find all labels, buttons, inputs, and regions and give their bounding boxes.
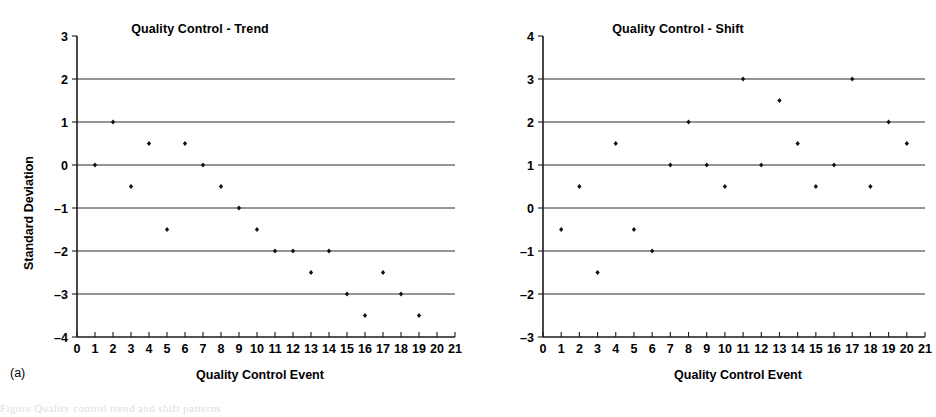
data-point — [111, 119, 115, 124]
data-point — [741, 76, 745, 81]
y-tick-label: 1 — [61, 116, 68, 130]
x-tick-label: 16 — [358, 342, 372, 356]
x-tick-label: 19 — [412, 342, 426, 356]
chart-panel-shift: Quality Control - Shift Standard Deviati… — [468, 0, 936, 400]
data-point — [255, 227, 259, 232]
data-point — [595, 270, 599, 275]
x-tick-label: 15 — [340, 342, 354, 356]
x-tick-label: 0 — [74, 342, 81, 356]
plot-area-shift: 43210–1–2–301234567891011121314151617181… — [468, 0, 936, 400]
y-tick-label: 2 — [61, 73, 68, 87]
x-tick-label: 2 — [110, 342, 117, 356]
y-tick-label: –1 — [54, 202, 68, 216]
x-tick-label: 2 — [576, 342, 583, 356]
x-tick-label: 8 — [218, 342, 225, 356]
cut-off-caption-text: Figure Quality control trend and shift p… — [0, 402, 936, 417]
x-tick-label: 7 — [200, 342, 207, 356]
data-point — [201, 162, 205, 167]
y-tick-label: –2 — [54, 245, 68, 259]
x-tick-label: 6 — [649, 342, 656, 356]
x-tick-label: 4 — [612, 342, 619, 356]
data-point — [417, 313, 421, 318]
data-point — [291, 248, 295, 253]
data-point — [814, 184, 818, 189]
data-point — [723, 184, 727, 189]
x-tick-label: 16 — [827, 342, 841, 356]
data-point — [650, 248, 654, 253]
data-point — [273, 248, 277, 253]
y-tick-label: 3 — [527, 73, 534, 87]
y-tick-label: 2 — [527, 116, 534, 130]
data-point — [796, 141, 800, 146]
figure-root: Quality Control - Trend Standard Deviati… — [0, 0, 936, 417]
x-tick-label: 20 — [900, 342, 914, 356]
data-point — [777, 98, 781, 103]
y-tick-label: –4 — [54, 331, 68, 345]
x-tick-label: 21 — [448, 342, 462, 356]
x-tick-label: 4 — [146, 342, 153, 356]
data-point — [614, 141, 618, 146]
y-tick-label: –2 — [520, 288, 534, 302]
x-tick-label: 14 — [322, 342, 336, 356]
x-tick-label: 10 — [718, 342, 732, 356]
x-tick-label: 17 — [845, 342, 859, 356]
data-point — [93, 162, 97, 167]
x-tick-label: 15 — [809, 342, 823, 356]
x-tick-label: 6 — [182, 342, 189, 356]
data-point — [327, 248, 331, 253]
x-tick-label: 21 — [918, 342, 932, 356]
x-tick-label: 3 — [128, 342, 135, 356]
data-point — [219, 184, 223, 189]
x-tick-label: 7 — [667, 342, 674, 356]
data-point — [668, 162, 672, 167]
x-tick-label: 20 — [430, 342, 444, 356]
x-tick-label: 8 — [685, 342, 692, 356]
plot-area-trend: 3210–1–2–3–40123456789101112131415161718… — [0, 0, 468, 400]
data-point — [381, 270, 385, 275]
data-point — [183, 141, 187, 146]
data-point — [886, 119, 890, 124]
data-point — [237, 205, 241, 210]
data-point — [147, 141, 151, 146]
data-point — [129, 184, 133, 189]
data-point — [309, 270, 313, 275]
x-tick-label: 17 — [376, 342, 390, 356]
y-tick-label: 4 — [527, 30, 534, 44]
data-point — [632, 227, 636, 232]
x-tick-label: 5 — [630, 342, 637, 356]
x-tick-label: 1 — [558, 342, 565, 356]
x-tick-label: 10 — [250, 342, 264, 356]
data-point — [345, 291, 349, 296]
x-tick-label: 18 — [863, 342, 877, 356]
data-point — [832, 162, 836, 167]
x-tick-label: 19 — [882, 342, 896, 356]
x-tick-label: 9 — [703, 342, 710, 356]
data-point — [759, 162, 763, 167]
x-tick-label: 13 — [304, 342, 318, 356]
data-point — [559, 227, 563, 232]
x-tick-label: 12 — [754, 342, 768, 356]
data-point — [399, 291, 403, 296]
x-tick-label: 5 — [164, 342, 171, 356]
y-tick-label: 0 — [61, 159, 68, 173]
data-point — [577, 184, 581, 189]
y-tick-label: 0 — [527, 202, 534, 216]
x-tick-label: 9 — [236, 342, 243, 356]
data-point — [363, 313, 367, 318]
x-tick-label: 12 — [286, 342, 300, 356]
y-tick-label: –3 — [54, 288, 68, 302]
data-point — [705, 162, 709, 167]
x-tick-label: 3 — [594, 342, 601, 356]
data-point — [165, 227, 169, 232]
y-tick-label: 3 — [61, 30, 68, 44]
x-tick-label: 18 — [394, 342, 408, 356]
y-tick-label: 1 — [527, 159, 534, 173]
data-point — [850, 76, 854, 81]
data-point — [868, 184, 872, 189]
data-point — [905, 141, 909, 146]
y-tick-label: –1 — [520, 245, 534, 259]
x-tick-label: 11 — [736, 342, 749, 356]
x-tick-label: 1 — [92, 342, 99, 356]
data-point — [686, 119, 690, 124]
y-tick-label: –3 — [520, 331, 534, 345]
